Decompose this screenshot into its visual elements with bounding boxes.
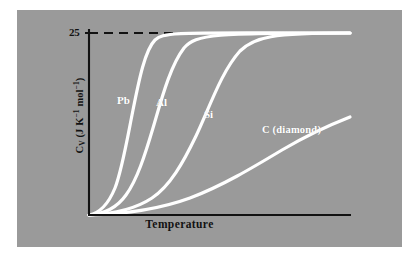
y-axis-title-units-open: (J K — [74, 118, 85, 141]
curve-label-si: Si — [204, 108, 213, 120]
y-axis-title-units-mid: mol — [74, 89, 85, 109]
curve-label-al: Al — [156, 96, 167, 108]
y-axis-title-symbol: C — [74, 146, 85, 154]
y-axis-title-exponent-1: −1 — [72, 109, 81, 117]
curve-label-c-diamond: C (diamond) — [262, 124, 321, 135]
x-axis-title-wrapper: Temperature — [0, 218, 419, 230]
y-axis-title-subscript: V — [78, 140, 87, 146]
curve-label-pb: Pb — [117, 94, 130, 106]
y-axis-title: CV (J K−1 mol−1) — [74, 36, 85, 196]
x-axis-title: Temperature — [145, 218, 213, 230]
y-axis-title-exponent-2: −1 — [72, 81, 81, 89]
figure-container: 25 CV (J K−1 mol−1) Temperature Pb Al Si… — [0, 0, 419, 258]
